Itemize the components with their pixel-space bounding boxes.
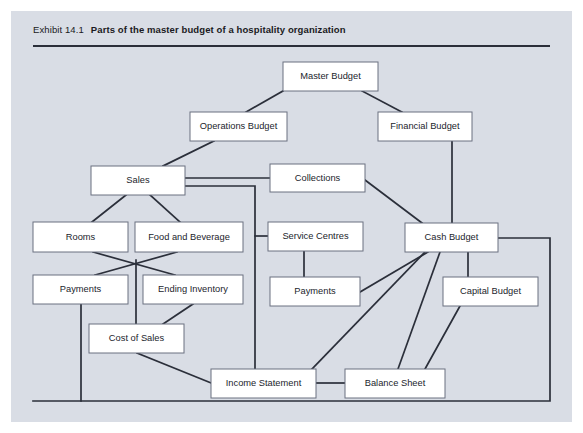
node-balance_sheet[interactable]: Balance Sheet [345,369,445,398]
edge-master-to-operations [246,91,283,112]
node-label-rooms: Rooms [66,232,96,242]
node-label-cash_budget: Cash Budget [425,232,479,242]
budget-flowchart: Master BudgetOperations BudgetFinancial … [0,0,583,433]
node-label-balance_sheet: Balance Sheet [365,378,426,388]
node-food_and_beverage[interactable]: Food and Beverage [135,222,243,252]
edge-capital-to-balance-sheet [425,306,460,369]
edge-sales-to-rooms [92,195,126,222]
edge-ending-inventory-to-cost [163,304,193,324]
flowchart-svg: Master BudgetOperations BudgetFinancial … [0,0,583,433]
edge-payments-right-to-cash [360,252,428,292]
node-collections[interactable]: Collections [270,164,365,192]
edge-operations-to-sales [163,141,214,166]
node-label-payments_right: Payments [294,286,336,296]
node-label-financial_budget: Financial Budget [390,121,460,131]
exhibit-page: Exhibit 14.1Parts of the master budget o… [0,0,583,433]
node-financial_budget[interactable]: Financial Budget [378,112,472,141]
node-label-master_budget: Master Budget [300,71,361,81]
edge-collections-to-cash [365,180,422,223]
node-label-income_statement: Income Statement [226,378,302,388]
node-rooms[interactable]: Rooms [33,222,128,252]
node-cost_of_sales[interactable]: Cost of Sales [89,324,184,353]
node-operations_budget[interactable]: Operations Budget [190,112,287,141]
node-label-cost_of_sales: Cost of Sales [109,333,165,343]
node-label-service_centres: Service Centres [282,231,348,241]
node-sales[interactable]: Sales [91,166,185,195]
node-payments_right[interactable]: Payments [270,277,360,306]
node-ending_inventory[interactable]: Ending Inventory [143,275,243,304]
node-income_statement[interactable]: Income Statement [211,369,316,398]
node-capital_budget[interactable]: Capital Budget [443,277,538,306]
edge-cash-to-income-statement [312,252,425,369]
node-service_centres[interactable]: Service Centres [268,222,363,251]
node-payments_left[interactable]: Payments [33,275,128,304]
node-label-operations_budget: Operations Budget [200,121,278,131]
nodes-layer: Master BudgetOperations BudgetFinancial … [33,62,538,398]
node-label-sales: Sales [126,175,150,185]
node-cash_budget[interactable]: Cash Budget [405,223,498,252]
node-master_budget[interactable]: Master Budget [283,62,378,91]
node-label-collections: Collections [295,173,341,183]
node-label-food_and_beverage: Food and Beverage [148,232,230,242]
edge-cash-to-balance-sheet [398,252,440,369]
edge-cost-of-sales-to-income [137,353,211,383]
node-label-capital_budget: Capital Budget [460,286,521,296]
node-label-ending_inventory: Ending Inventory [158,284,228,294]
edge-master-to-financial [362,91,402,112]
edge-sales-to-food-beverage [150,195,180,222]
node-label-payments_left: Payments [60,284,102,294]
